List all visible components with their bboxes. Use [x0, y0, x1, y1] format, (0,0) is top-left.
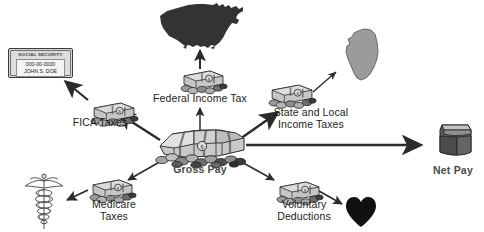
label-fica-taxes: FICA Taxes [58, 116, 142, 129]
label-state-and-local-line2: Income Taxes [259, 118, 363, 131]
usa-map-icon [160, 3, 243, 49]
svg-text:$: $ [201, 144, 204, 150]
ssn-card-header: SOCIAL SECURITY [18, 52, 62, 58]
money-bundle-icon-federal [181, 71, 227, 94]
money-bundle-icon-state [269, 85, 316, 108]
label-state-and-local-line1: State and Local [259, 106, 363, 119]
ssn-card-name: JOHN S. DOE [17, 68, 63, 75]
wallet-icon [440, 125, 471, 155]
label-voluntary-line1: Voluntary [262, 198, 346, 211]
heart-icon [346, 197, 376, 227]
caduceus-icon [25, 174, 63, 229]
social-security-card-icon: SOCIAL SECURITY 000-00-0000 JOHN S. DOE [8, 48, 73, 78]
label-medicare-line1: Medicare [78, 198, 150, 211]
state-map-icon [346, 29, 378, 80]
label-voluntary-line2: Deductions [262, 210, 346, 223]
label-federal-income-tax: Federal Income Tax [144, 92, 256, 105]
label-net-pay: Net Pay [424, 164, 482, 177]
label-medicare-line2: Taxes [78, 210, 150, 223]
label-gross-pay: Gross Pay [160, 163, 240, 176]
payroll-flow-diagram: $ [0, 0, 484, 232]
